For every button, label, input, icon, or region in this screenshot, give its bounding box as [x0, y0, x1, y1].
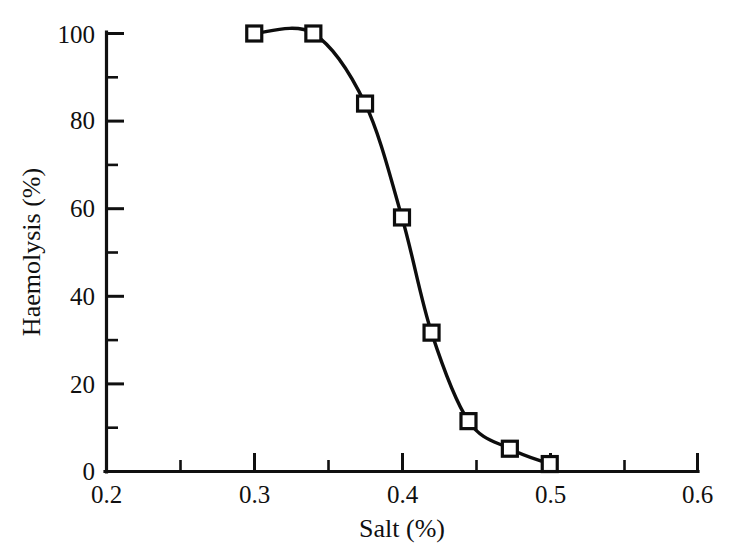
data-point-marker — [461, 414, 476, 429]
y-tick-label-60: 60 — [70, 195, 95, 222]
x-tick-label-0-3: 0.3 — [239, 481, 270, 508]
x-tick-label-0-2: 0.2 — [91, 481, 122, 508]
haemolysis-vs-salt-chart: 0 20 40 60 80 100 0.2 0.3 0.4 0.5 0.6 Sa… — [0, 0, 744, 558]
data-point-marker — [358, 96, 373, 111]
data-point-marker — [424, 325, 439, 340]
haemolysis-markers — [247, 26, 558, 472]
data-point-marker — [542, 457, 557, 472]
x-tick-label-0-5: 0.5 — [535, 481, 566, 508]
data-point-marker — [306, 26, 321, 41]
x-tick-label-0-4: 0.4 — [387, 481, 419, 508]
y-tick-label-40: 40 — [70, 283, 95, 310]
y-tick-labels: 0 20 40 60 80 100 — [58, 21, 96, 486]
x-axis-title: Salt (%) — [359, 514, 445, 543]
chart-figure: 0 20 40 60 80 100 0.2 0.3 0.4 0.5 0.6 Sa… — [0, 0, 744, 558]
y-tick-label-80: 80 — [70, 107, 95, 134]
data-point-marker — [247, 26, 262, 41]
data-point-marker — [395, 210, 410, 225]
x-tick-label-0-6: 0.6 — [682, 481, 713, 508]
axis-spines — [105, 32, 698, 472]
y-axis-title: Haemolysis (%) — [17, 168, 46, 336]
x-axis-ticks — [107, 453, 698, 472]
data-series-group — [247, 26, 558, 472]
y-tick-label-20: 20 — [70, 371, 95, 398]
y-tick-label-100: 100 — [58, 21, 96, 48]
haemolysis-line — [254, 28, 550, 464]
y-axis-ticks — [107, 34, 125, 472]
data-point-marker — [502, 441, 517, 456]
x-tick-labels: 0.2 0.3 0.4 0.5 0.6 — [91, 481, 713, 508]
